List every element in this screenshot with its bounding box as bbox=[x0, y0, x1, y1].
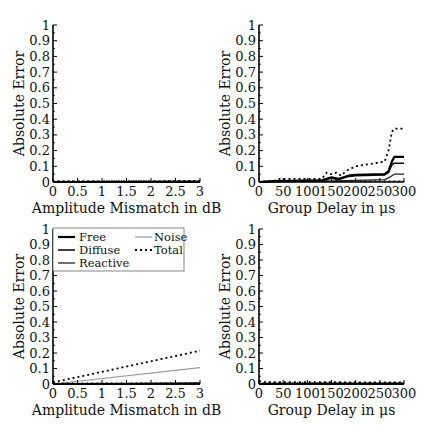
x-tick-label: 200 bbox=[343, 386, 368, 401]
y-tick-label: 0.8 bbox=[235, 253, 256, 268]
x-tick-label: 100 bbox=[295, 184, 320, 199]
legend: Free Diffuse Reactive Noise Total bbox=[53, 228, 188, 271]
x-tick-label: 3 bbox=[196, 386, 204, 401]
y-tick-label: 0.9 bbox=[235, 33, 256, 48]
x-tick-label: 1 bbox=[98, 386, 106, 401]
y-tick-label: 0.5 bbox=[235, 299, 256, 314]
x-tick-label: 300 bbox=[392, 184, 417, 199]
y-tick-label: 0.3 bbox=[29, 127, 50, 142]
x-tick-label: 0 bbox=[255, 184, 263, 199]
y-tick-label: 0.4 bbox=[235, 315, 256, 330]
plot-top-right: 00.10.20.30.40.50.60.70.80.9105010015020… bbox=[217, 18, 416, 217]
y-tick-label: 0.9 bbox=[29, 237, 50, 252]
series-total bbox=[53, 351, 200, 383]
x-tick-label: 150 bbox=[319, 184, 344, 199]
x-tick-label: 2.5 bbox=[165, 386, 186, 401]
y-tick-label: 0.1 bbox=[235, 361, 256, 376]
y-tick-label: 0.1 bbox=[235, 159, 256, 174]
x-tick-label: 0 bbox=[49, 184, 57, 199]
legend-label-free: Free bbox=[79, 230, 106, 244]
y-tick-label: 0.1 bbox=[29, 159, 50, 174]
figure: 00.10.20.30.40.50.60.70.80.9100.511.522.… bbox=[0, 0, 426, 432]
y-tick-label: 0.1 bbox=[29, 361, 50, 376]
x-tick-label: 0 bbox=[255, 386, 263, 401]
x-tick-label: 200 bbox=[343, 184, 368, 199]
y-tick-label: 0.6 bbox=[235, 80, 256, 95]
x-tick-label: 2 bbox=[147, 184, 155, 199]
y-tick-label: 0.3 bbox=[29, 330, 50, 345]
x-tick-label: 100 bbox=[295, 386, 320, 401]
x-tick-label: 0.5 bbox=[67, 386, 88, 401]
y-tick-label: 1 bbox=[248, 18, 256, 33]
y-axis-label: Absolute Error bbox=[217, 254, 233, 361]
x-tick-label: 50 bbox=[275, 386, 292, 401]
y-tick-label: 0.3 bbox=[235, 330, 256, 345]
x-axis-label: Group Delay in μs bbox=[268, 402, 396, 418]
y-tick-label: 0.6 bbox=[29, 284, 50, 299]
x-tick-label: 0 bbox=[49, 386, 57, 401]
y-tick-label: 0.2 bbox=[235, 346, 256, 361]
y-tick-label: 0.9 bbox=[235, 237, 256, 252]
y-tick-label: 0.5 bbox=[29, 299, 50, 314]
y-tick-label: 0.2 bbox=[235, 143, 256, 158]
y-axis-label: Absolute Error bbox=[11, 254, 27, 361]
y-tick-label: 0.6 bbox=[235, 284, 256, 299]
x-tick-label: 1 bbox=[98, 184, 106, 199]
plot-top-left: 00.10.20.30.40.50.60.70.80.9100.511.522.… bbox=[11, 18, 221, 217]
x-tick-label: 3 bbox=[196, 184, 204, 199]
legend-label-reactive: Reactive bbox=[79, 256, 130, 270]
y-tick-label: 1 bbox=[42, 222, 50, 237]
x-tick-label: 150 bbox=[319, 386, 344, 401]
y-tick-label: 0.8 bbox=[235, 49, 256, 64]
x-axis-label: Amplitude Mismatch in dB bbox=[31, 402, 221, 418]
x-axis-label: Amplitude Mismatch in dB bbox=[31, 200, 221, 216]
y-tick-label: 0.5 bbox=[235, 96, 256, 111]
legend-label-noise: Noise bbox=[154, 230, 188, 244]
y-tick-label: 0.7 bbox=[29, 65, 50, 80]
legend-label-diffuse: Diffuse bbox=[79, 243, 120, 257]
x-tick-label: 1.5 bbox=[116, 184, 137, 199]
y-tick-label: 0.3 bbox=[235, 127, 256, 142]
x-tick-label: 0.5 bbox=[67, 184, 88, 199]
x-axis-label: Group Delay in μs bbox=[268, 200, 396, 216]
y-tick-label: 0.6 bbox=[29, 80, 50, 95]
y-tick-label: 0.4 bbox=[29, 112, 50, 127]
y-tick-label: 1 bbox=[42, 18, 50, 33]
y-tick-label: 0.9 bbox=[29, 33, 50, 48]
y-tick-label: 0.2 bbox=[29, 143, 50, 158]
x-tick-label: 250 bbox=[367, 386, 392, 401]
y-tick-label: 0.5 bbox=[29, 96, 50, 111]
x-tick-label: 300 bbox=[392, 386, 417, 401]
y-tick-label: 0.7 bbox=[235, 65, 256, 80]
plot-bottom-right: 00.10.20.30.40.50.60.70.80.9105010015020… bbox=[217, 222, 416, 419]
y-tick-label: 0.2 bbox=[29, 346, 50, 361]
y-axis-label: Absolute Error bbox=[11, 51, 27, 158]
x-tick-label: 2.5 bbox=[165, 184, 186, 199]
y-tick-label: 0.8 bbox=[29, 49, 50, 64]
y-tick-label: 1 bbox=[248, 222, 256, 237]
x-tick-label: 1.5 bbox=[116, 386, 137, 401]
y-tick-label: 0.4 bbox=[235, 112, 256, 127]
y-tick-label: 0.7 bbox=[235, 268, 256, 283]
x-tick-label: 50 bbox=[275, 184, 292, 199]
y-axis-label: Absolute Error bbox=[217, 51, 233, 158]
x-tick-label: 2 bbox=[147, 386, 155, 401]
x-tick-label: 250 bbox=[367, 184, 392, 199]
y-tick-label: 0.8 bbox=[29, 253, 50, 268]
y-tick-label: 0.4 bbox=[29, 315, 50, 330]
legend-label-total: Total bbox=[154, 243, 183, 257]
y-tick-label: 0.7 bbox=[29, 268, 50, 283]
